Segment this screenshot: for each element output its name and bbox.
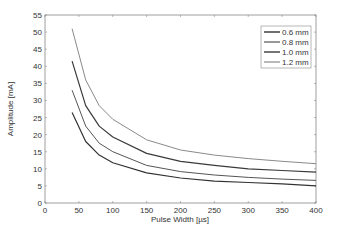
- y-tick-label: 55: [33, 11, 42, 20]
- x-tick-label: 0: [43, 206, 48, 215]
- x-tick-label: 400: [309, 206, 323, 215]
- legend-label: 0.6 mm: [282, 28, 309, 37]
- legend: 0.6 mm0.8 mm1.0 mm1.2 mm: [261, 26, 311, 68]
- line-chart: 0501001502002503003504000510152025303540…: [0, 0, 340, 238]
- x-tick-label: 50: [74, 206, 83, 215]
- legend-label: 1.2 mm: [282, 58, 309, 67]
- y-axis-label: Amplitude [mA]: [6, 82, 15, 136]
- y-tick-label: 15: [33, 148, 42, 157]
- y-tick-label: 35: [33, 79, 42, 88]
- y-tick-label: 25: [33, 114, 42, 123]
- y-tick-label: 20: [33, 131, 42, 140]
- y-tick-label: 50: [33, 28, 42, 37]
- x-tick-label: 100: [106, 206, 120, 215]
- y-tick-label: 0: [38, 199, 43, 208]
- y-tick-label: 30: [33, 96, 42, 105]
- x-tick-label: 200: [174, 206, 188, 215]
- y-tick-label: 5: [38, 182, 43, 191]
- x-tick-label: 150: [140, 206, 154, 215]
- x-tick-label: 350: [275, 206, 289, 215]
- legend-label: 0.8 mm: [282, 38, 309, 47]
- y-tick-label: 10: [33, 165, 42, 174]
- y-tick-label: 45: [33, 45, 42, 54]
- x-tick-label: 250: [208, 206, 222, 215]
- x-axis-label: Pulse Width [µs]: [151, 215, 209, 224]
- x-tick-label: 300: [242, 206, 256, 215]
- legend-label: 1.0 mm: [282, 48, 309, 57]
- y-tick-label: 40: [33, 62, 42, 71]
